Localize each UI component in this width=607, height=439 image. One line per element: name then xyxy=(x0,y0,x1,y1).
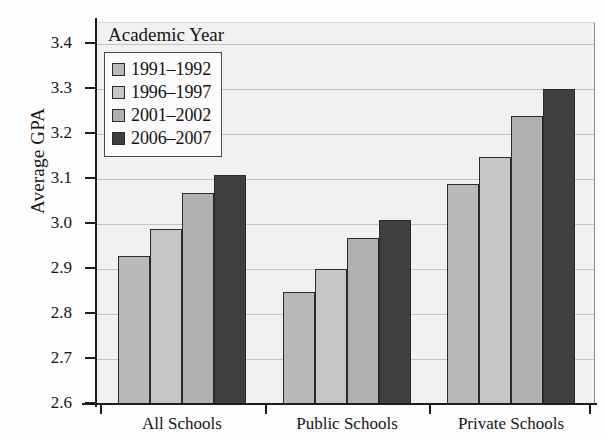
bar xyxy=(315,269,347,404)
bar xyxy=(511,116,543,404)
x-axis-tick-label: Public Schools xyxy=(267,414,427,434)
legend-swatch xyxy=(112,109,125,122)
y-axis-tick xyxy=(85,402,96,404)
y-axis-tick-label: 3.0 xyxy=(28,213,72,233)
y-axis-tick xyxy=(85,177,96,179)
x-axis-tick xyxy=(265,403,267,414)
legend-entry: 1996–1997 xyxy=(112,81,211,104)
y-axis-tick xyxy=(85,87,96,89)
legend-title: Academic Year xyxy=(108,24,224,46)
legend-label: 2006–2007 xyxy=(131,128,211,149)
y-axis-tick-label: 2.7 xyxy=(28,348,72,368)
legend-entry: 2006–2007 xyxy=(112,127,211,150)
legend-label: 1996–1997 xyxy=(131,82,211,103)
bar xyxy=(347,238,379,405)
x-axis-tick xyxy=(429,403,431,414)
y-axis-tick xyxy=(85,267,96,269)
y-axis-tick-label: 2.9 xyxy=(28,258,72,278)
x-axis-line xyxy=(82,403,597,405)
y-axis-tick xyxy=(85,222,96,224)
bar xyxy=(118,256,150,405)
legend-swatch xyxy=(112,63,125,76)
legend-entry: 1991–1992 xyxy=(112,58,211,81)
bar xyxy=(182,193,214,405)
y-axis-tick-label: 3.4 xyxy=(28,33,72,53)
bar xyxy=(283,292,315,405)
x-axis-tick-label: Private Schools xyxy=(431,414,591,434)
legend: 1991–19921996–19972001–20022006–2007 xyxy=(104,52,222,157)
legend-label: 2001–2002 xyxy=(131,105,211,126)
legend-entry: 2001–2002 xyxy=(112,104,211,127)
legend-swatch xyxy=(112,86,125,99)
y-axis-tick-label: 2.6 xyxy=(28,393,72,413)
bar xyxy=(150,229,182,405)
x-axis-tick-label: All Schools xyxy=(102,414,262,434)
y-axis-tick xyxy=(85,312,96,314)
legend-label: 1991–1992 xyxy=(131,59,211,80)
y-axis-tick xyxy=(85,42,96,44)
y-axis-tick xyxy=(85,357,96,359)
bar xyxy=(447,184,479,405)
gpa-bar-chart: Average GPA 3.43.33.23.13.02.92.82.72.6 … xyxy=(0,0,607,439)
y-axis-tick-label: 2.8 xyxy=(28,303,72,323)
y-axis-tick-label: 3.1 xyxy=(28,168,72,188)
bar xyxy=(543,89,575,404)
y-axis-line xyxy=(95,18,97,407)
bar xyxy=(479,157,511,405)
bar xyxy=(379,220,411,405)
x-axis-tick xyxy=(100,403,102,414)
y-axis-tick-label: 3.3 xyxy=(28,78,72,98)
legend-swatch xyxy=(112,132,125,145)
y-axis-tick xyxy=(85,132,96,134)
x-axis-tick xyxy=(589,403,591,414)
y-axis-tick-label: 3.2 xyxy=(28,123,72,143)
bar xyxy=(214,175,246,405)
